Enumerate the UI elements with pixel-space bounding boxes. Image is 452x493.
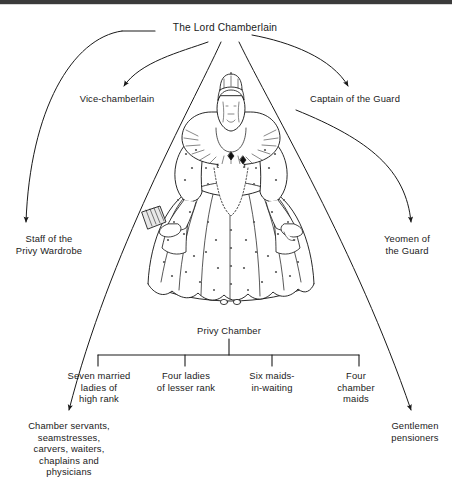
connector-to-staff-privy-wardrobe <box>26 31 122 222</box>
node-staff-of-the-privy-wardrobe: Staff of the Privy Wardrobe <box>2 233 96 256</box>
node-yeomen-of-the-guard: Yeomen of the Guard <box>362 233 452 256</box>
queen-elizabeth-figure <box>138 72 324 320</box>
node-gentlemen-pensioners: Gentlemen pensioners <box>378 420 452 443</box>
node-privy-chamber: Privy Chamber <box>177 325 281 337</box>
node-seven-married-ladies: Seven married ladies of high rank <box>58 370 140 405</box>
node-six-maids-in-waiting: Six maids- in-waiting <box>232 370 312 393</box>
node-vice-chamberlain: Vice-chamberlain <box>62 93 172 105</box>
node-lord-chamberlain: The Lord Chamberlain <box>155 22 295 34</box>
node-chamber-servants: Chamber servants, seamstresses, carvers,… <box>0 420 138 478</box>
node-four-ladies-of-lesser-rank: Four ladies of lesser rank <box>145 370 227 393</box>
node-four-chamber-maids: Four chamber maids <box>320 370 392 405</box>
diagram-page: The Lord Chamberlain Vice-chamberlain Ca… <box>0 0 452 493</box>
node-captain-of-the-guard: Captain of the Guard <box>290 93 420 105</box>
